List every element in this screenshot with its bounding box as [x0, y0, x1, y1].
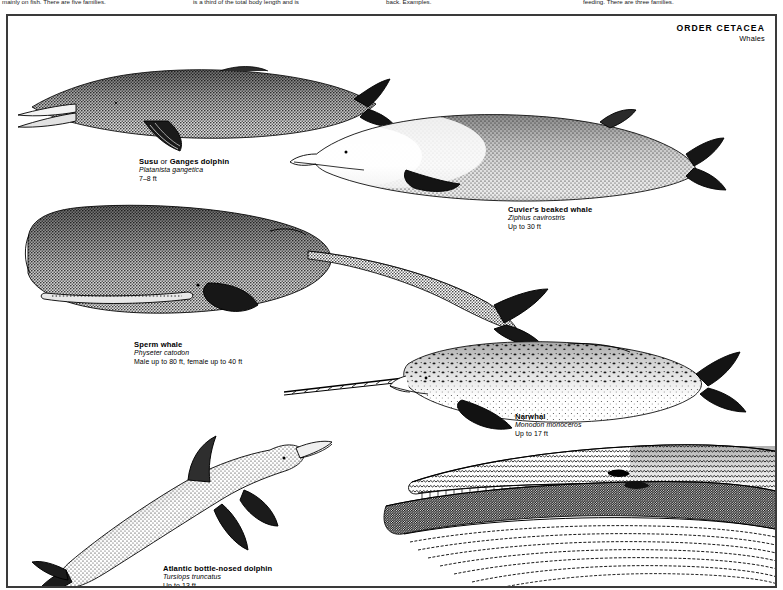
narwhal-latin-name: Monodon monoceros: [515, 421, 581, 430]
running-text-strip: mainly on fish. There are five families.…: [0, 0, 783, 9]
susu-size: 7–8 ft: [139, 175, 229, 184]
rorqual-back-shading: [630, 446, 775, 494]
order-title: ORDER CETACEA: [676, 23, 765, 34]
narwhal-tusk: [284, 378, 404, 395]
cuviers-common-name: Cuvier's beaked whale: [508, 205, 592, 214]
running-text-column-3: back. Examples.: [386, 0, 431, 6]
figure-atlantic-bottle-nosed-dolphin: [38, 424, 358, 586]
running-text-column-1: mainly on fish. There are five families.: [2, 0, 106, 6]
figure-cuviers-beaked-whale: [300, 104, 715, 209]
cuviers-eye: [345, 151, 348, 154]
narwhal-tusk-spiral: [292, 380, 392, 394]
illustration-plate: ORDER CETACEA Whales: [6, 14, 777, 588]
susu-latin-name: Platanista gangetica: [139, 166, 229, 175]
plate-inner: ORDER CETACEA Whales: [8, 16, 775, 586]
dolphin-pectoral-fin-near: [240, 490, 278, 526]
susu-eye: [115, 102, 117, 104]
cuviers-dorsal-fin: [600, 110, 636, 129]
figure-sperm-whale-tail: [308, 231, 548, 351]
rorqual-throat-pleats: [404, 518, 775, 586]
dolphin-size: Up to 13 ft: [163, 582, 272, 586]
caption-atlantic-bottle-nosed-dolphin: Atlantic bottle-nosed dolphin Tursiops t…: [163, 564, 272, 586]
dolphin-eye: [283, 457, 286, 460]
sperm-whale-latin-name: Physeter catodon: [134, 349, 242, 358]
narwhal-eye: [425, 377, 428, 380]
caption-sperm-whale: Sperm whale Physeter catodon Male up to …: [134, 340, 242, 367]
susu-dorsal-ridge: [220, 67, 268, 72]
narwhal-flukes: [696, 352, 746, 412]
running-text-column-4: feeding. There are three families.: [583, 0, 674, 6]
dolphin-latin-name: Tursiops truncatus: [163, 573, 272, 582]
caption-narwhal: Narwhal Monodon monoceros Up to 17 ft: [515, 412, 581, 439]
caption-cuviers-beaked-whale: Cuvier's beaked whale Ziphius cavirostri…: [508, 205, 592, 232]
cuviers-latin-name: Ziphius cavirostris: [508, 214, 592, 223]
susu-common-name: Susu or Ganges dolphin: [139, 157, 229, 166]
narwhal-common-name: Narwhal: [515, 412, 581, 421]
running-text-column-2: is a third of the total body length and …: [193, 0, 299, 6]
dolphin-pectoral-fin-far: [214, 504, 248, 550]
figure-sperm-whale: [22, 201, 352, 331]
dolphin-common-name: Atlantic bottle-nosed dolphin: [163, 564, 272, 573]
sperm-whale-peduncle: [308, 251, 518, 331]
figure-rorqual-head: [380, 438, 775, 586]
caption-susu: Susu or Ganges dolphin Platanista ganget…: [139, 157, 229, 184]
sperm-whale-size: Male up to 80 ft, female up to 40 ft: [134, 358, 242, 367]
sperm-whale-common-name: Sperm whale: [134, 340, 242, 349]
sperm-whale-eye: [196, 283, 199, 286]
order-header: ORDER CETACEA Whales: [676, 23, 765, 43]
dolphin-rostrum: [296, 441, 332, 458]
order-subtitle: Whales: [676, 34, 765, 43]
